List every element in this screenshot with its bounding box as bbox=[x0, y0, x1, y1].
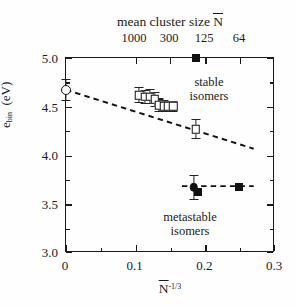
y-tick-right-major-3-0 bbox=[267, 252, 273, 253]
y-tick-minor-3-75 bbox=[66, 180, 70, 181]
top-tick-label-1000: 1000 bbox=[122, 32, 147, 45]
x-tick-major-0-1 bbox=[136, 245, 137, 251]
x-tick-minor-0-15 bbox=[171, 248, 172, 252]
top-tick-label-64: 64 bbox=[233, 32, 246, 45]
data-point-stable-9 bbox=[191, 125, 200, 134]
annotation-metastable-line-2: isomers bbox=[163, 224, 216, 238]
y-tick-major-5-0 bbox=[66, 58, 72, 59]
plot-frame: stable isomers metastable isomers bbox=[65, 57, 274, 252]
x-tick-major-0 bbox=[66, 245, 67, 251]
top-tick-64 bbox=[240, 58, 241, 64]
x-tick-label-0-1: 0.1 bbox=[127, 259, 143, 272]
x-tick-label-0-2: 0.2 bbox=[196, 259, 212, 272]
top-tick-1000 bbox=[136, 58, 137, 64]
y-tick-label-3-5: 3.5 bbox=[0, 197, 58, 210]
top-tick-label-125: 125 bbox=[195, 32, 214, 45]
y-tick-right-minor-3-75 bbox=[270, 180, 274, 181]
y-tick-right-minor-4-75 bbox=[270, 82, 274, 83]
top-tick-label-300: 300 bbox=[160, 32, 179, 45]
top-tick-300 bbox=[170, 58, 171, 64]
figure-container: mean cluster size N 1000 300 125 64 ebin… bbox=[0, 0, 295, 307]
annotation-metastable-isomers: metastable isomers bbox=[163, 210, 216, 238]
top-tick-125 bbox=[205, 58, 206, 64]
y-tick-right-major-5-0 bbox=[267, 58, 273, 59]
data-point-metastable-3 bbox=[192, 54, 200, 62]
annotation-metastable-line-1: metastable bbox=[163, 210, 216, 224]
y-tick-right-major-4-5 bbox=[267, 107, 273, 108]
annotation-stable-line-1: stable bbox=[190, 75, 229, 89]
data-point-metastable-4 bbox=[235, 183, 243, 191]
y-tick-major-3-5 bbox=[66, 204, 72, 205]
annotation-stable-isomers: stable isomers bbox=[190, 75, 229, 103]
y-tick-major-3-0 bbox=[66, 252, 72, 253]
y-tick-label-4-0: 4.0 bbox=[0, 149, 58, 162]
y-tick-major-4-5 bbox=[66, 107, 72, 108]
x-axis-title: N-1/3 bbox=[159, 281, 182, 297]
y-axis-title-base: e bbox=[0, 122, 13, 128]
top-axis-title-symbol: N bbox=[213, 14, 223, 29]
top-axis-title-text: mean cluster size bbox=[117, 14, 210, 29]
y-tick-right-minor-3-25 bbox=[270, 229, 274, 230]
x-axis-title-exponent: -1/3 bbox=[168, 282, 181, 291]
top-axis-title: mean cluster size N bbox=[117, 14, 223, 30]
y-tick-right-major-4-0 bbox=[267, 156, 273, 157]
x-tick-major-0-3 bbox=[274, 245, 275, 251]
data-point-bulk-limit bbox=[61, 85, 71, 95]
y-axis-title-subscript: bin bbox=[5, 112, 14, 122]
data-point-metastable-2 bbox=[194, 188, 202, 196]
x-axis-title-base: N bbox=[159, 281, 169, 296]
data-point-stable-8 bbox=[169, 102, 178, 111]
x-tick-label-0-3: 0.3 bbox=[266, 259, 282, 272]
annotation-stable-line-2: isomers bbox=[190, 89, 229, 103]
x-tick-minor-0-25 bbox=[240, 248, 241, 252]
y-tick-major-4-0 bbox=[66, 156, 72, 157]
x-tick-minor-0-05 bbox=[101, 248, 102, 252]
x-tick-major-0-2 bbox=[205, 245, 206, 251]
y-tick-right-minor-4-25 bbox=[270, 131, 274, 132]
y-tick-minor-3-25 bbox=[66, 229, 70, 230]
y-tick-label-3-0: 3.0 bbox=[0, 246, 58, 259]
y-tick-label-4-5: 4.5 bbox=[0, 100, 58, 113]
y-tick-minor-4-25 bbox=[66, 131, 70, 132]
y-tick-right-major-3-5 bbox=[267, 204, 273, 205]
x-tick-label-0: 0 bbox=[62, 259, 69, 272]
y-tick-label-5-0: 5.0 bbox=[0, 52, 58, 65]
plot-area: stable isomers metastable isomers bbox=[66, 58, 273, 251]
